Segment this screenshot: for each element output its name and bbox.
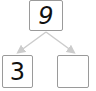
part-box-right[interactable] <box>57 55 89 88</box>
arrow-left <box>20 32 46 51</box>
arrow-right <box>46 32 72 51</box>
part-value-left: 3 <box>10 58 25 86</box>
whole-value: 9 <box>38 2 53 30</box>
part-box-left: 3 <box>2 55 33 88</box>
whole-box: 9 <box>29 0 63 31</box>
